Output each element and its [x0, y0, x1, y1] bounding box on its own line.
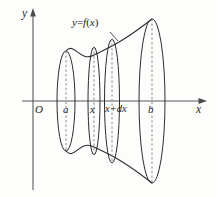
tick-label-a: a	[63, 104, 69, 115]
y-axis-label: y	[22, 8, 27, 20]
tick-label-x-plus-dx-head: x+	[105, 103, 117, 114]
bottom-profile-curve	[66, 145, 152, 183]
tick-label-b: b	[148, 104, 154, 115]
tick-label-x: x	[90, 104, 95, 115]
figure-canvas	[0, 0, 216, 197]
function-curve-label: y=f(x)	[72, 17, 98, 28]
x-axis-label: x	[196, 104, 201, 116]
origin-label: O	[35, 104, 43, 115]
solid-of-revolution-figure: y x O a x x+dx b y=f(x)	[0, 0, 216, 197]
curve-label-close-paren: )	[95, 16, 99, 28]
tick-label-x-plus-dx: x+dx	[105, 104, 127, 115]
tick-label-x-plus-dx-tail: x	[122, 103, 127, 114]
y-axis-arrow-icon	[30, 8, 36, 17]
y-axis	[30, 8, 36, 190]
